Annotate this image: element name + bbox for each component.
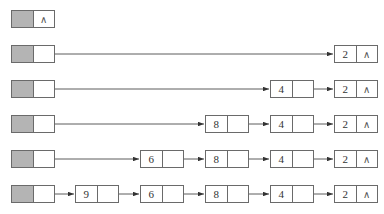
node-value: 6 bbox=[141, 151, 162, 167]
head-node-row-2 bbox=[11, 80, 55, 98]
node-value: 8 bbox=[206, 151, 227, 167]
node-value: 6 bbox=[141, 186, 162, 202]
node-value: 2 bbox=[335, 151, 356, 167]
node-pointer-cell bbox=[292, 186, 314, 202]
node-pointer-cell bbox=[97, 186, 119, 202]
list-node: 2 ∧ bbox=[334, 185, 378, 203]
node-pointer-cell bbox=[227, 151, 249, 167]
head-data-cell bbox=[12, 46, 33, 62]
node-pointer-cell bbox=[162, 151, 184, 167]
head-pointer-cell bbox=[33, 186, 55, 202]
list-node: 2 ∧ bbox=[334, 115, 378, 133]
null-pointer-icon: ∧ bbox=[356, 186, 378, 202]
null-pointer-icon: ∧ bbox=[356, 81, 378, 97]
node-value: 4 bbox=[271, 151, 292, 167]
node-value: 2 bbox=[335, 46, 356, 62]
head-pointer-cell bbox=[33, 116, 55, 132]
head-pointer-cell bbox=[33, 46, 55, 62]
head-node-row-1 bbox=[11, 45, 55, 63]
node-value: 9 bbox=[76, 186, 97, 202]
head-data-cell bbox=[12, 81, 33, 97]
node-pointer-cell bbox=[162, 186, 184, 202]
list-node: 2 ∧ bbox=[334, 80, 378, 98]
node-pointer-cell bbox=[292, 151, 314, 167]
node-value: 4 bbox=[271, 116, 292, 132]
head-data-cell bbox=[12, 116, 33, 132]
list-node: 8 bbox=[205, 150, 249, 168]
list-node: 2 ∧ bbox=[334, 150, 378, 168]
node-pointer-cell bbox=[292, 116, 314, 132]
list-node: 6 bbox=[140, 185, 184, 203]
list-node: 8 bbox=[205, 115, 249, 133]
list-node: 8 bbox=[205, 185, 249, 203]
list-node: 4 bbox=[270, 185, 314, 203]
null-pointer-icon: ∧ bbox=[356, 116, 378, 132]
node-value: 2 bbox=[335, 116, 356, 132]
head-node-row-0: ∧ bbox=[11, 10, 55, 28]
node-value: 8 bbox=[206, 186, 227, 202]
null-pointer-icon: ∧ bbox=[356, 46, 378, 62]
node-value: 2 bbox=[335, 186, 356, 202]
list-node: 4 bbox=[270, 115, 314, 133]
null-pointer-icon: ∧ bbox=[356, 151, 378, 167]
node-pointer-cell bbox=[227, 116, 249, 132]
head-node-row-5 bbox=[11, 185, 55, 203]
list-node: 9 bbox=[75, 185, 119, 203]
list-node: 4 bbox=[270, 150, 314, 168]
arrow-layer bbox=[0, 0, 384, 214]
list-node: 6 bbox=[140, 150, 184, 168]
list-node: 4 bbox=[270, 80, 314, 98]
head-pointer-cell bbox=[33, 151, 55, 167]
head-pointer-cell bbox=[33, 81, 55, 97]
list-node: 2 ∧ bbox=[334, 45, 378, 63]
node-value: 8 bbox=[206, 116, 227, 132]
node-value: 4 bbox=[271, 81, 292, 97]
node-value: 2 bbox=[335, 81, 356, 97]
null-pointer-icon: ∧ bbox=[33, 11, 55, 27]
node-value: 4 bbox=[271, 186, 292, 202]
node-pointer-cell bbox=[227, 186, 249, 202]
head-data-cell bbox=[12, 151, 33, 167]
head-node-row-3 bbox=[11, 115, 55, 133]
head-data-cell bbox=[12, 186, 33, 202]
node-pointer-cell bbox=[292, 81, 314, 97]
head-node-row-4 bbox=[11, 150, 55, 168]
head-data-cell bbox=[12, 11, 33, 27]
